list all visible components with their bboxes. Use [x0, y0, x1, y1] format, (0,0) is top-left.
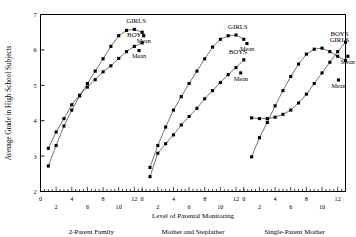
data-point — [297, 101, 300, 104]
series-line-boys — [252, 42, 346, 118]
data-point — [195, 107, 198, 110]
series-line-boys — [48, 43, 142, 148]
data-point — [234, 33, 237, 36]
panel-label: 2-Parent Family — [69, 228, 115, 236]
data-point — [250, 155, 253, 158]
data-point — [320, 47, 323, 50]
data-point — [250, 116, 253, 119]
x-tick-label: 12 — [233, 195, 239, 202]
data-point — [86, 82, 89, 85]
data-point — [180, 123, 183, 126]
data-point — [180, 95, 183, 98]
data-point — [125, 50, 128, 53]
data-point — [219, 38, 222, 41]
mean-label: Mean — [137, 37, 151, 44]
data-point — [62, 117, 65, 120]
data-point — [266, 121, 269, 124]
data-point — [94, 78, 97, 81]
data-point — [297, 63, 300, 66]
data-point — [188, 82, 191, 85]
data-point — [62, 124, 65, 127]
x-tick-label: 0 — [242, 195, 245, 202]
x-tick-label: 8 — [102, 195, 105, 202]
data-point — [133, 28, 136, 31]
data-point — [55, 130, 58, 133]
x-tick-label: 6 — [86, 203, 89, 210]
data-point — [125, 29, 128, 32]
data-point — [336, 55, 339, 58]
data-point — [281, 89, 284, 92]
x-tick-label: 0 — [141, 195, 144, 202]
data-point — [289, 109, 292, 112]
y-axis-title: Average Grade in High School Subjects — [5, 45, 13, 160]
data-point — [274, 116, 277, 119]
data-point — [336, 50, 339, 53]
x-tick-label: 6 — [289, 203, 292, 210]
data-point — [133, 45, 136, 48]
data-point — [328, 61, 331, 64]
data-point — [172, 109, 175, 112]
data-point — [234, 66, 237, 69]
y-tick-label: 5 — [33, 82, 36, 89]
data-point — [203, 57, 206, 60]
data-point — [203, 97, 206, 100]
chart-container: 234567Average Grade in High School Subje… — [0, 0, 356, 237]
x-tick-label: 10 — [319, 203, 325, 210]
data-point — [148, 166, 151, 169]
series-label-girls: GIRLS — [330, 36, 350, 43]
data-point — [94, 70, 97, 73]
x-tick-label: 10 — [217, 203, 223, 210]
data-point — [211, 89, 214, 92]
data-point — [164, 142, 167, 145]
data-point — [289, 75, 292, 78]
x-tick-label: 4 — [274, 195, 277, 202]
data-point — [274, 104, 277, 107]
data-point — [47, 164, 50, 167]
parental-monitoring-chart: 234567Average Grade in High School Subje… — [0, 0, 356, 237]
panel-label: Mother and Stepfather — [162, 228, 226, 236]
y-tick-label: 4 — [33, 117, 36, 124]
x-axis-title: Level of Parental Monitoring — [152, 212, 234, 220]
data-point — [313, 48, 316, 51]
data-point — [227, 34, 230, 37]
data-point — [141, 31, 144, 34]
mean-label: Mean — [240, 45, 254, 52]
data-point — [242, 38, 245, 41]
data-point — [305, 53, 308, 56]
data-point — [109, 64, 112, 67]
series-label-girls: GIRLS — [228, 23, 248, 30]
data-point — [313, 82, 316, 85]
x-tick-label: 2 — [258, 203, 261, 210]
mean-label: Mean — [331, 82, 345, 89]
series-line-girls — [48, 29, 142, 166]
series-line-girls — [150, 35, 244, 167]
data-point — [219, 81, 222, 84]
y-tick-label: 3 — [33, 153, 36, 160]
data-point — [156, 144, 159, 147]
data-point — [148, 175, 151, 178]
data-point — [320, 71, 323, 74]
data-point — [86, 86, 89, 89]
y-tick-label: 6 — [33, 46, 36, 53]
data-point — [117, 57, 120, 60]
series-label-girls: GIRLS — [126, 17, 146, 24]
data-point — [195, 70, 198, 73]
data-point — [172, 133, 175, 136]
x-tick-label: 10 — [116, 203, 122, 210]
data-point — [102, 70, 105, 73]
mean-label: Mean — [234, 75, 248, 82]
x-tick-label: 4 — [172, 195, 175, 202]
data-point — [281, 113, 284, 116]
data-point — [55, 144, 58, 147]
data-point — [211, 46, 214, 49]
x-tick-label: 4 — [70, 195, 73, 202]
y-tick-label: 2 — [33, 188, 36, 195]
data-point — [164, 126, 167, 129]
mean-label: Mean — [132, 52, 146, 59]
data-point — [47, 147, 50, 150]
x-tick-label: 12 — [335, 195, 341, 202]
data-point — [117, 34, 120, 37]
data-point — [258, 117, 261, 120]
y-tick-label: 7 — [33, 11, 36, 18]
data-point — [70, 103, 73, 106]
